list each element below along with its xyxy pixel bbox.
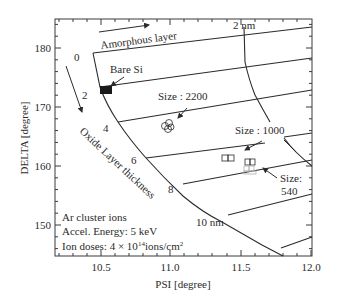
- oxide-6-label: 6: [131, 154, 137, 166]
- amorphous-2nm-curve-a: [244, 27, 270, 122]
- contour-oxide-4: [118, 90, 312, 122]
- size-1000-label: Size : 1000: [235, 124, 285, 136]
- conditions-line-3: Ion doses: 4 × 1014ions/cm2: [62, 240, 184, 252]
- x-tick-labels: 10.5 11.0 11.5 12.0: [91, 261, 321, 273]
- x-axis-title: PSI [degree]: [155, 278, 210, 290]
- contour-oxide-6b: [284, 133, 312, 137]
- size-2200-markers: [162, 120, 175, 133]
- oxide-2-label: 2: [82, 89, 88, 101]
- conditions-text: Ar cluster ions Accel. Energy: 5 keV Ion…: [62, 211, 184, 252]
- size-1000-arrow-b: [284, 140, 296, 152]
- oxide-8-label: 8: [168, 183, 174, 195]
- bare-si-marker: [100, 86, 112, 94]
- conditions-line-1: Ar cluster ions: [62, 211, 127, 223]
- oxide-10nm-label: 10 nm: [196, 216, 224, 228]
- conditions-line-2: Accel. Energy: 5 keV: [62, 225, 157, 237]
- oxide-arrow: [66, 66, 82, 112]
- y-tick-170: 170: [35, 101, 52, 113]
- size-2200-arrow: [178, 108, 187, 118]
- contour-oxide-6a: [146, 143, 265, 158]
- x-tick-12-0: 12.0: [301, 261, 321, 273]
- y-tick-180: 180: [35, 42, 52, 54]
- ellipsometry-chart: 180 170 160 150 10.5 11.0 11.5 12.0 PSI …: [0, 0, 337, 297]
- oxide-4-label: 4: [103, 122, 109, 134]
- oxide-layer-thickness-label: Oxide Layer thickness: [78, 125, 159, 201]
- x-tick-11-5: 11.5: [232, 261, 251, 273]
- y-axis-title: DELTA [degree]: [18, 102, 30, 175]
- size-2200-label: Size : 2200: [158, 90, 208, 102]
- oxide-0-label: 0: [74, 51, 80, 63]
- y-tick-160: 160: [35, 160, 52, 172]
- y-tick-150: 150: [35, 219, 52, 231]
- bare-si-label: Bare Si: [110, 63, 143, 75]
- y-tick-labels: 180 170 160 150: [35, 42, 52, 231]
- x-tick-10-5: 10.5: [91, 261, 111, 273]
- size-540-label-1: Size:: [280, 172, 302, 184]
- size-1000-markers: [222, 155, 255, 165]
- x-tick-11-0: 11.0: [161, 261, 180, 273]
- amorphous-2nm-curve-b: [284, 138, 312, 166]
- size-540-arrow: [263, 168, 277, 178]
- amorphous-arrow: [99, 25, 149, 32]
- contour-oxide-12: [281, 237, 312, 248]
- size-540-label-2: 540: [281, 185, 298, 197]
- amorphous-2nm-label: 2 nm: [233, 19, 256, 31]
- contour-oxide-10: [228, 194, 312, 215]
